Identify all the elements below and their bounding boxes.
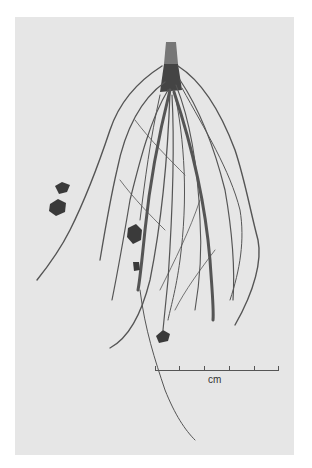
scale-unit-label: cm: [208, 374, 221, 385]
scale-tick: [278, 366, 279, 371]
scale-tick: [204, 366, 205, 371]
scale-tick: [229, 366, 230, 371]
scale-bar-line: [155, 370, 279, 371]
scale-bar: [155, 366, 279, 374]
root-photo: [15, 17, 294, 455]
root-system-drawing: [15, 17, 294, 455]
scale-tick: [254, 366, 255, 371]
scale-tick: [155, 366, 156, 371]
scale-tick: [179, 366, 180, 371]
